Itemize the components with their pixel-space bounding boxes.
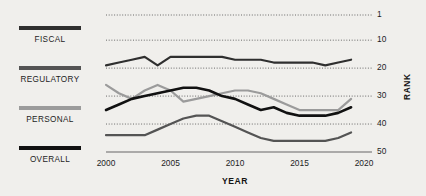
y-axis-tick-40: 40 bbox=[377, 119, 403, 128]
chart-plot-area: 1 10 20 30 40 50 2000 2005 2010 2015 202… bbox=[0, 0, 426, 196]
x-axis-tick-2010: 2010 bbox=[215, 158, 255, 168]
y-axis-tick-10: 10 bbox=[377, 35, 403, 44]
y-axis-tick-30: 30 bbox=[377, 91, 403, 100]
y-axis-tick-1: 1 bbox=[377, 10, 403, 19]
y-axis-title: RANK bbox=[402, 73, 412, 100]
series-line-fiscal bbox=[106, 57, 351, 65]
y-axis-tick-20: 20 bbox=[377, 63, 403, 72]
series-line-regulatory bbox=[106, 116, 351, 141]
x-axis-tick-2015: 2015 bbox=[280, 158, 320, 168]
x-axis-tick-2000: 2000 bbox=[86, 158, 126, 168]
chart-series-lines bbox=[106, 57, 351, 141]
x-axis-tick-2005: 2005 bbox=[151, 158, 191, 168]
y-axis-tick-50: 50 bbox=[377, 147, 403, 156]
chart-figure: FISCAL REGULATORY PERSONAL OVERALL 1 10 … bbox=[0, 0, 426, 196]
x-axis-title: YEAR bbox=[175, 176, 295, 186]
x-axis-tick-2020: 2020 bbox=[344, 158, 384, 168]
chart-gridlines bbox=[106, 15, 372, 124]
